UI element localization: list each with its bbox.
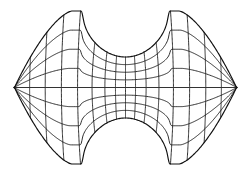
figure-root xyxy=(0,0,251,175)
curvilinear-mesh-svg xyxy=(0,0,251,175)
